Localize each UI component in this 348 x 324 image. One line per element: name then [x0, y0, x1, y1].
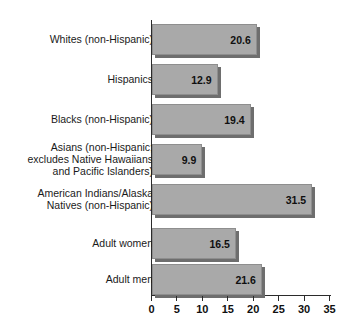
chart-row: Hispanics12.9 [0, 64, 348, 95]
bar-wrapper: 20.6 [152, 24, 257, 55]
bar: 9.9 [152, 144, 202, 175]
bar-wrapper: 9.9 [152, 144, 202, 175]
bar-value-label: 31.5 [286, 194, 306, 206]
bar-value-label: 16.5 [209, 238, 229, 250]
bar-value-label: 19.4 [224, 114, 244, 126]
x-axis-tick [227, 296, 228, 301]
category-label: Adult women [1, 237, 153, 249]
bar-value-label: 20.6 [230, 34, 250, 46]
x-axis-tick [176, 296, 177, 301]
x-axis-tick-label: 25 [267, 303, 291, 316]
bar-value-label: 21.6 [235, 274, 255, 286]
bar-wrapper: 31.5 [152, 184, 312, 215]
bar-chart: Whites (non-Hispanic)20.6Hispanics12.9Bl… [0, 0, 348, 324]
category-label: Whites (non-Hispanic) [1, 33, 153, 45]
bar-value-label: 12.9 [191, 74, 211, 86]
chart-row: Blacks (non-Hispanic)19.4 [0, 104, 348, 135]
bar: 19.4 [152, 104, 251, 135]
x-axis-tick [151, 296, 152, 301]
bar-wrapper: 19.4 [152, 104, 251, 135]
category-label: American Indians/Alaska Natives (non-His… [1, 187, 153, 212]
x-axis-tick-label: 10 [190, 303, 214, 316]
chart-row: Asians (non-Hispanic; excludes Native Ha… [0, 144, 348, 175]
x-axis-tick [278, 296, 279, 301]
bar: 21.6 [152, 264, 262, 295]
x-axis-tick [329, 296, 330, 301]
bar: 31.5 [152, 184, 312, 215]
chart-row: American Indians/Alaska Natives (non-His… [0, 184, 348, 215]
chart-row: Whites (non-Hispanic)20.6 [0, 24, 348, 55]
bar-value-label: 9.9 [182, 154, 197, 166]
category-label: Hispanics [1, 73, 153, 85]
bar: 20.6 [152, 24, 257, 55]
x-axis-tick-label: 20 [241, 303, 265, 316]
bar-wrapper: 12.9 [152, 64, 218, 95]
category-label: Adult men [1, 273, 153, 285]
x-axis-tick-label: 35 [318, 303, 342, 316]
x-axis-tick [202, 296, 203, 301]
x-axis-tick [304, 296, 305, 301]
bar: 12.9 [152, 64, 218, 95]
chart-row: Adult women16.5 [0, 228, 348, 259]
x-axis-tick-label: 0 [140, 303, 164, 316]
category-label: Blacks (non-Hispanic) [1, 113, 153, 125]
x-axis-tick-label: 5 [165, 303, 189, 316]
x-axis-tick [253, 296, 254, 301]
bar: 16.5 [152, 228, 236, 259]
chart-row: Adult men21.6 [0, 264, 348, 295]
x-axis-tick-label: 30 [292, 303, 316, 316]
category-label: Asians (non-Hispanic; excludes Native Ha… [1, 141, 153, 178]
bar-wrapper: 16.5 [152, 228, 236, 259]
x-axis-tick-label: 15 [216, 303, 240, 316]
bar-wrapper: 21.6 [152, 264, 262, 295]
